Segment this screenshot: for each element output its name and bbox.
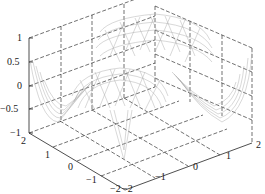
x-tick-1: 1 [226,151,231,161]
z-tick-neg1: −1 [10,128,21,138]
z-tick-neg0.5: −0.5 [0,104,18,114]
z-tick-0: 0 [17,81,22,91]
grid-dashed [29,0,252,178]
y-tick-0: 0 [68,162,73,172]
surface-mesh [30,14,252,160]
x-tick-0: 0 [193,162,198,172]
x-tick-neg1: −1 [155,172,166,182]
y-tick-neg2: −2 [110,184,121,194]
surface-plot [0,0,265,194]
x-tick-neg2: −2 [122,184,133,194]
x-tick-2: 2 [256,140,261,150]
z-tick-0.5: 0.5 [7,57,20,67]
y-tick-2: 2 [21,136,26,146]
y-tick-neg1: −1 [86,175,97,185]
z-tick-1: 1 [17,33,22,43]
y-tick-1: 1 [45,150,50,160]
